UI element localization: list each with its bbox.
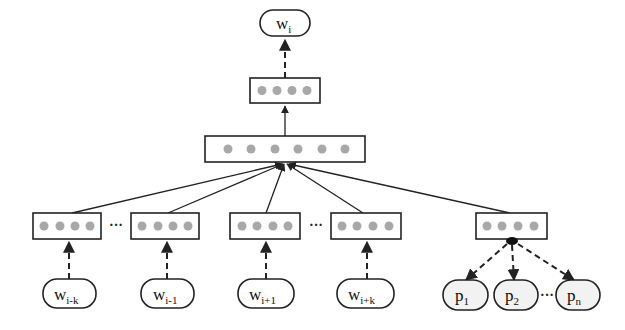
- context-dashed-arrows: [69, 242, 367, 279]
- context-ellipsis-1: ···: [109, 218, 123, 233]
- context-box-1: [33, 213, 101, 239]
- param-ellipsis: ···: [540, 288, 554, 303]
- output-node: wi: [260, 10, 310, 36]
- param-input-1: p1: [443, 280, 488, 310]
- param-input-2: p2: [494, 280, 538, 310]
- context-ellipsis-2: ···: [309, 218, 323, 233]
- context-input-1: wi-k: [43, 279, 96, 308]
- param-vector-box: [476, 213, 547, 239]
- param-input-n: pn: [556, 280, 600, 310]
- diagram-canvas: wi ··· ···: [0, 0, 625, 330]
- param-dashed-arrows: [466, 244, 574, 280]
- context-input-4: wi+k: [337, 279, 394, 308]
- context-connections: [72, 164, 510, 213]
- hidden-layer: [250, 78, 320, 103]
- context-box-3: [230, 213, 300, 239]
- output-label: w: [276, 14, 289, 33]
- aggregation-node: [506, 237, 518, 245]
- context-box-4: [331, 213, 401, 239]
- context-input-2: wi-1: [141, 279, 194, 308]
- context-input-3: wi+1: [238, 279, 294, 308]
- context-box-2: [131, 213, 199, 239]
- output-subscript: i: [288, 23, 291, 35]
- combined-layer: [205, 136, 365, 162]
